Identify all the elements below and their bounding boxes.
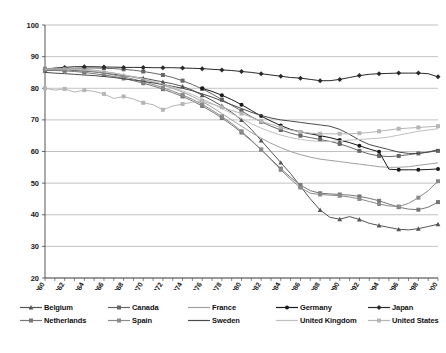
legend-key-japan [368, 303, 390, 312]
marker [259, 148, 263, 152]
xtick-label-1976: 1976 [189, 281, 203, 290]
marker [318, 132, 322, 136]
legend-label-france: France [212, 303, 236, 312]
marker [357, 73, 362, 78]
marker [338, 194, 342, 198]
marker [161, 108, 165, 112]
marker [338, 142, 342, 146]
legend-item-japan[interactable]: Japan [368, 303, 440, 312]
xtick-label-1982: 1982 [248, 281, 262, 290]
marker [141, 101, 145, 105]
legend-item-united-states[interactable]: United States [368, 316, 440, 325]
marker [279, 125, 283, 129]
marker [43, 67, 47, 71]
legend-row-1: Belgium Canada France Germany Japan [20, 303, 440, 312]
marker [377, 202, 381, 206]
marker [436, 200, 440, 204]
legend-item-belgium[interactable]: Belgium [20, 303, 108, 312]
xtick-label-1966: 1966 [91, 281, 105, 290]
ytick-label-80: 80 [31, 84, 39, 93]
ytick-label-20: 20 [31, 274, 39, 283]
legend-item-sweden[interactable]: Sweden [188, 316, 276, 325]
marker [240, 112, 244, 116]
legend-item-france[interactable]: France [188, 303, 276, 312]
xtick-label-1992: 1992 [346, 281, 360, 290]
xtick-label-1978: 1978 [209, 281, 223, 290]
marker [397, 168, 401, 172]
marker [337, 77, 342, 82]
marker [200, 66, 205, 71]
marker [200, 99, 204, 103]
marker [416, 125, 420, 129]
legend-item-canada[interactable]: Canada [108, 303, 188, 312]
legend-key-united-states [368, 316, 390, 325]
legend-item-united-kingdom[interactable]: United Kingdom [276, 316, 368, 325]
xtick-label-1970: 1970 [130, 281, 144, 290]
marker [161, 86, 165, 90]
legend-key-germany [276, 303, 298, 312]
ytick-label-30: 30 [31, 242, 39, 251]
ytick-label-60: 60 [31, 147, 39, 156]
marker [200, 102, 204, 106]
marker [82, 88, 86, 92]
legend-label-germany: Germany [300, 303, 332, 312]
marker [298, 130, 302, 134]
ytick-label-90: 90 [31, 52, 39, 61]
xtick-label-1984: 1984 [268, 281, 282, 290]
ytick-label-50: 50 [31, 179, 39, 188]
marker [160, 65, 165, 70]
marker [220, 93, 224, 97]
marker [436, 124, 440, 128]
xtick-label-1988: 1988 [307, 281, 321, 290]
legend-label-japan: Japan [392, 303, 413, 312]
marker [377, 129, 381, 133]
marker [338, 132, 342, 136]
marker [357, 131, 361, 135]
legend-item-netherlands[interactable]: Netherlands [20, 316, 108, 325]
xtick-label-1990: 1990 [327, 281, 341, 290]
marker [298, 186, 302, 190]
marker [318, 78, 323, 83]
marker [357, 149, 361, 153]
marker [436, 222, 441, 226]
ytick-label-100: 100 [26, 21, 39, 30]
marker [357, 197, 361, 201]
marker [239, 69, 244, 74]
xtick-label-1968: 1968 [111, 281, 125, 290]
ytick-label-40: 40 [31, 210, 39, 219]
marker [279, 168, 283, 172]
legend-label-united-states: United States [392, 316, 439, 325]
series-netherlands [43, 69, 440, 212]
marker [396, 71, 401, 76]
legend-key-canada [108, 303, 130, 312]
marker [102, 92, 106, 96]
marker [141, 65, 146, 70]
legend-key-belgium [20, 303, 42, 312]
xtick-label-1994: 1994 [366, 281, 380, 290]
marker [416, 71, 421, 76]
marker [436, 167, 440, 171]
marker [416, 196, 420, 200]
marker [161, 73, 165, 77]
chart-svg: 2030405060708090100196019621964196619681… [0, 0, 446, 290]
marker [338, 138, 342, 142]
chart-legend: Belgium Canada France Germany Japan [20, 303, 440, 329]
marker [298, 76, 303, 81]
xtick-label-2000: 2000 [425, 281, 439, 290]
legend-item-germany[interactable]: Germany [276, 303, 368, 312]
marker [318, 193, 322, 197]
marker [181, 102, 185, 106]
marker [436, 74, 441, 79]
legend-item-spain[interactable]: Spain [108, 316, 188, 325]
marker [278, 74, 283, 79]
marker [240, 103, 244, 107]
legend-key-sweden [188, 316, 210, 325]
xtick-label-1998: 1998 [405, 281, 419, 290]
legend-label-netherlands: Netherlands [44, 316, 86, 325]
marker [298, 134, 302, 138]
xtick-label-1980: 1980 [229, 281, 243, 290]
marker [397, 154, 401, 158]
marker [220, 114, 224, 118]
legend-label-united-kingdom: United Kingdom [300, 316, 357, 325]
marker [259, 119, 263, 123]
